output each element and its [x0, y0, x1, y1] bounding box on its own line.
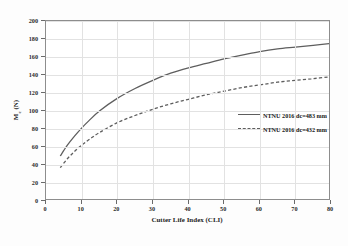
y-axis-tick: [41, 110, 45, 111]
y-axis-tick: [41, 20, 45, 21]
gridline-horizontal: [46, 93, 329, 94]
x-axis-tick: [81, 200, 82, 204]
y-axis-tick: [41, 92, 45, 93]
x-axis-tick-label: 20: [113, 205, 119, 212]
y-axis-tick: [41, 74, 45, 75]
y-axis-title-unit: (N): [12, 100, 20, 111]
y-axis-tick-label: 60: [32, 143, 38, 150]
y-axis-tick: [41, 128, 45, 129]
x-axis-tick: [223, 200, 224, 204]
x-axis-tick: [330, 200, 331, 204]
gridline-vertical: [224, 21, 225, 199]
gridline-vertical: [153, 21, 154, 199]
gridline-vertical: [82, 21, 83, 199]
x-axis-tick-label: 80: [327, 205, 333, 212]
legend-item: NTNU 2016 dc=432 mm: [238, 122, 342, 136]
y-axis-tick-label: 0: [35, 197, 38, 204]
legend-swatch-dashed: [238, 125, 260, 133]
legend-label: NTNU 2016 dc=432 mm: [263, 126, 327, 133]
x-axis-title: Cutter Life Index (CLI): [151, 216, 222, 224]
y-axis-tick-label: 80: [32, 125, 38, 132]
y-axis-title: Mc (N): [12, 100, 21, 120]
series-line-solid: [60, 44, 330, 157]
x-axis-tick: [294, 200, 295, 204]
x-axis-tick-label: 40: [184, 205, 190, 212]
legend-item: NTNU 2016 dc=483 mm: [238, 108, 342, 122]
y-axis-tick: [41, 146, 45, 147]
x-axis-tick: [188, 200, 189, 204]
x-axis-tick-label: 70: [291, 205, 297, 212]
y-axis-tick: [41, 56, 45, 57]
gridline-vertical: [117, 21, 118, 199]
x-axis-tick-label: 10: [78, 205, 84, 212]
x-axis-tick: [259, 200, 260, 204]
x-axis-tick-label: 0: [43, 205, 46, 212]
y-axis-tick-label: 100: [29, 107, 38, 114]
y-axis-tick-label: 40: [32, 161, 38, 168]
gridline-horizontal: [46, 147, 329, 148]
y-axis-tick-label: 200: [29, 17, 38, 24]
gridline-horizontal: [46, 75, 329, 76]
legend-label: NTNU 2016 dc=483 mm: [263, 112, 327, 119]
legend-swatch-solid: [238, 111, 260, 119]
y-axis-tick: [41, 200, 45, 201]
y-axis-tick-label: 160: [29, 53, 38, 60]
legend: NTNU 2016 dc=483 mm NTNU 2016 dc=432 mm: [238, 108, 342, 136]
x-axis-tick: [152, 200, 153, 204]
y-axis-tick-label: 140: [29, 71, 38, 78]
y-axis-tick: [41, 38, 45, 39]
gridline-horizontal: [46, 39, 329, 40]
y-axis-tick-label: 120: [29, 89, 38, 96]
gridline-horizontal: [46, 165, 329, 166]
gridline-horizontal: [46, 183, 329, 184]
x-axis-tick: [45, 200, 46, 204]
x-axis-tick-label: 60: [256, 205, 262, 212]
x-axis-tick-label: 30: [149, 205, 155, 212]
x-axis-tick-label: 50: [220, 205, 226, 212]
y-axis-title-main: M: [12, 114, 20, 121]
gridline-vertical: [189, 21, 190, 199]
gridline-horizontal: [46, 21, 329, 22]
y-axis-tick: [41, 164, 45, 165]
y-axis-tick: [41, 182, 45, 183]
y-axis-tick-label: 180: [29, 35, 38, 42]
y-axis-tick-label: 20: [32, 179, 38, 186]
x-axis-tick: [116, 200, 117, 204]
gridline-horizontal: [46, 57, 329, 58]
chart-figure: 0102030405060708002040608010012014016018…: [0, 0, 348, 246]
y-axis-title-subscript: c: [17, 111, 22, 113]
